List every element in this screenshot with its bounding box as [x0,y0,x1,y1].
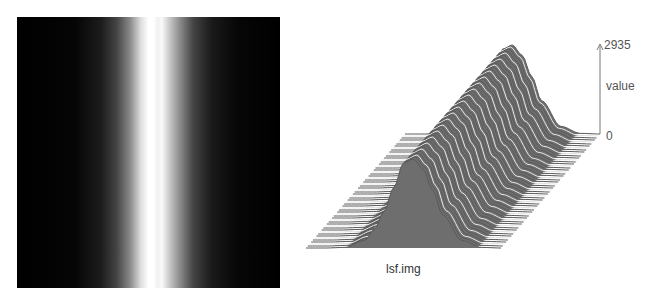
plot-caption: lsf.img [386,262,421,276]
lsf-intensity-image [17,17,280,288]
axis-name-label: value [606,80,635,92]
axis-zero-label: 0 [606,130,613,142]
axis-max-label: 2935 [604,39,631,51]
intensity-image-canvas [17,17,280,288]
surface-plot: 2935 value 0 lsf.img [290,0,650,298]
surface-plot-canvas [290,0,650,298]
